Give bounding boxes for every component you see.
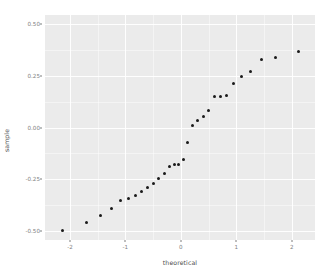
x-axis-tick-mark xyxy=(125,240,126,242)
gridline-major-vertical xyxy=(125,15,126,240)
data-point xyxy=(163,172,166,175)
x-axis-tick-label: 2 xyxy=(290,244,294,250)
x-axis-tick-label: 0 xyxy=(179,244,183,250)
data-point xyxy=(134,194,137,197)
x-axis-title: theoretical xyxy=(45,259,315,266)
data-point xyxy=(157,177,160,180)
x-axis-tick-mark xyxy=(291,240,292,242)
data-point xyxy=(140,190,143,193)
data-point xyxy=(202,115,205,118)
data-point xyxy=(173,163,176,166)
data-point xyxy=(260,58,263,61)
data-point xyxy=(196,119,199,122)
data-point xyxy=(152,182,155,185)
y-axis-tick-mark xyxy=(40,75,42,76)
data-point xyxy=(182,158,185,161)
data-point xyxy=(232,82,235,85)
data-point xyxy=(177,163,180,166)
data-point xyxy=(127,197,130,200)
data-point xyxy=(186,141,189,144)
y-axis-tick-label: 0.25 xyxy=(14,73,40,79)
x-axis-tick-label: -1 xyxy=(123,244,129,250)
y-axis-title-text: sample xyxy=(4,128,11,151)
y-axis-tick-mark xyxy=(40,230,42,231)
data-point xyxy=(110,207,113,210)
y-axis-tick-label: 0.50 xyxy=(14,21,40,27)
data-point xyxy=(61,229,64,232)
y-axis-tick-mark xyxy=(40,179,42,180)
x-axis-tick-mark xyxy=(69,240,70,242)
y-axis-tick-label: -0.50 xyxy=(14,228,40,234)
x-axis-tick-labels: -2-1012 xyxy=(45,240,315,254)
y-axis-tick-label: -0.25 xyxy=(14,176,40,182)
data-point xyxy=(274,56,277,59)
y-axis-tick-label: 0.00 xyxy=(14,125,40,131)
gridline-major-vertical xyxy=(292,15,293,240)
gridline-major-vertical xyxy=(181,15,182,240)
y-axis-tick-mark xyxy=(40,24,42,25)
x-axis-tick-mark xyxy=(180,240,181,242)
data-point xyxy=(168,165,171,168)
qq-plot-figure: sample -0.50-0.250.000.250.50 -2-1012 th… xyxy=(0,0,322,280)
gridline-major-vertical xyxy=(70,15,71,240)
data-point xyxy=(213,95,216,98)
data-point xyxy=(219,95,222,98)
data-point xyxy=(191,124,194,127)
data-point xyxy=(146,186,149,189)
y-axis-tick-labels: -0.50-0.250.000.250.50 xyxy=(12,0,40,280)
data-point xyxy=(225,94,228,97)
y-axis-tick-mark xyxy=(40,127,42,128)
data-point xyxy=(85,221,88,224)
data-point xyxy=(119,199,122,202)
plot-panel xyxy=(45,15,315,240)
x-axis-tick-label: 1 xyxy=(234,244,238,250)
x-axis-tick-mark xyxy=(236,240,237,242)
x-axis-tick-label: -2 xyxy=(67,244,73,250)
gridline-major-vertical xyxy=(236,15,237,240)
data-point xyxy=(249,70,252,73)
data-point xyxy=(99,214,102,217)
data-point xyxy=(240,75,243,78)
